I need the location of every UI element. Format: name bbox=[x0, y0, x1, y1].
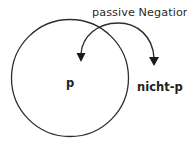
passive-negation-label: passive Negation bbox=[92, 7, 187, 18]
negation-diagram bbox=[0, 0, 187, 146]
arrowhead-down-icon bbox=[77, 53, 86, 62]
arrowhead-down-icon bbox=[149, 57, 159, 66]
negation-arc bbox=[81, 23, 154, 58]
nicht-p-label: nicht-p bbox=[137, 82, 183, 94]
p-label: p bbox=[66, 78, 74, 90]
